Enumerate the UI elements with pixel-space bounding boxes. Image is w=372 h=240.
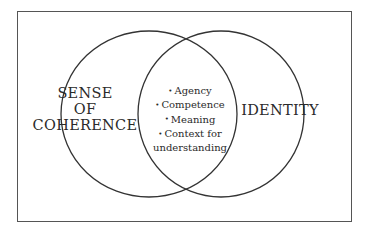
- bullet-icon: •: [168, 87, 172, 95]
- intersection-item-context-cont: understanding: [140, 141, 240, 155]
- intersection-item-context: •Context for: [140, 127, 240, 141]
- bullet-icon: •: [155, 101, 159, 109]
- item-text: Agency: [174, 85, 211, 96]
- item-text: Competence: [161, 99, 224, 110]
- item-text: Context for: [164, 128, 221, 139]
- sense-of-coherence-label: SENSE OF COHERENCE: [30, 85, 140, 133]
- intersection-item-meaning: •Meaning: [140, 113, 240, 127]
- intersection-list: •Agency •Competence •Meaning •Context fo…: [140, 84, 240, 155]
- intersection-item-agency: •Agency: [140, 84, 240, 98]
- bullet-icon: •: [158, 130, 162, 138]
- left-label-line-1: SENSE: [30, 85, 140, 101]
- identity-label: IDENTITY: [240, 102, 320, 118]
- left-label-line-2: OF: [30, 101, 140, 117]
- intersection-item-competence: •Competence: [140, 98, 240, 112]
- bullet-icon: •: [165, 115, 169, 123]
- left-label-line-3: COHERENCE: [30, 117, 140, 133]
- item-text: Meaning: [171, 114, 216, 125]
- item-text: understanding: [153, 142, 227, 153]
